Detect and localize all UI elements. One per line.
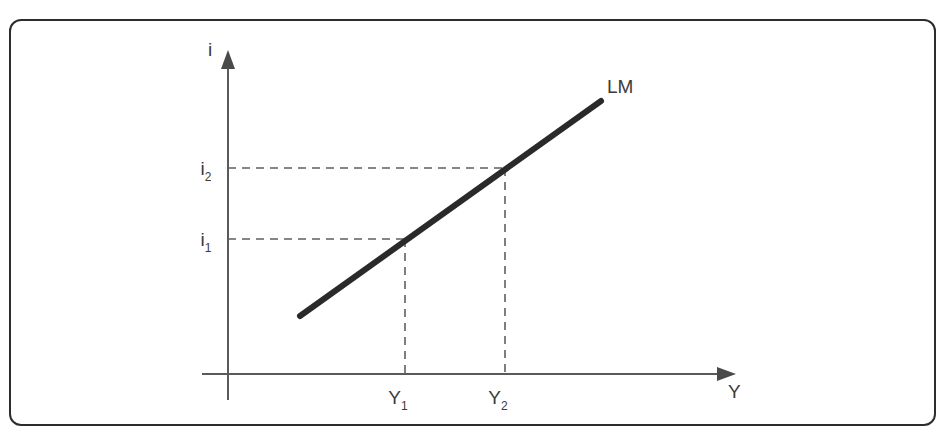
tick-label-Y2-sub: 2 [501,399,508,413]
tick-label-Y2-base: Y [488,387,501,408]
tick-label-Y1-base: Y [388,387,401,408]
tick-label-Y1-sub: 1 [401,399,408,413]
vertical-axis-label: i [208,39,212,60]
lm-curve-diagram: i Y LM i2 i1 Y1 Y2 [0,0,947,432]
diagram-canvas: i Y LM i2 i1 Y1 Y2 [0,0,947,432]
lm-curve [300,101,601,316]
vertical-axis-arrow-icon [221,50,235,69]
tick-label-i1: i1 [201,229,212,255]
figure-border [10,20,935,425]
tick-label-i2-sub: 2 [205,170,212,184]
tick-label-i1-sub: 1 [205,241,212,255]
horizontal-axis-label: Y [728,381,741,402]
lm-curve-label: LM [607,76,633,97]
tick-label-Y1: Y1 [388,387,408,413]
horizontal-axis-arrow-icon [717,367,736,381]
tick-label-i2: i2 [201,158,212,184]
tick-label-Y2: Y2 [488,387,508,413]
